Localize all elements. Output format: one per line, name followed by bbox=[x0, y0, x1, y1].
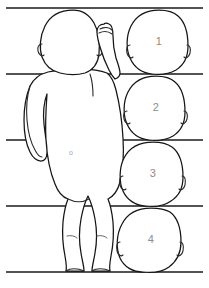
head-unit-2: 2 bbox=[124, 76, 188, 140]
diagram-canvas: o 1 2 3 bbox=[0, 0, 209, 288]
head-unit-1: 1 bbox=[127, 10, 191, 74]
head-number-1: 1 bbox=[156, 35, 163, 47]
head-number-3: 3 bbox=[150, 167, 157, 179]
infant-navel-mark: o bbox=[69, 149, 73, 156]
infant-head-outline bbox=[40, 10, 99, 75]
head-number-2: 2 bbox=[153, 101, 160, 113]
head-unit-3: 3 bbox=[120, 142, 186, 206]
head-unit-4: 4 bbox=[117, 208, 184, 272]
head-number-4: 4 bbox=[148, 233, 155, 245]
proportion-diagram: o 1 2 3 bbox=[0, 0, 209, 288]
